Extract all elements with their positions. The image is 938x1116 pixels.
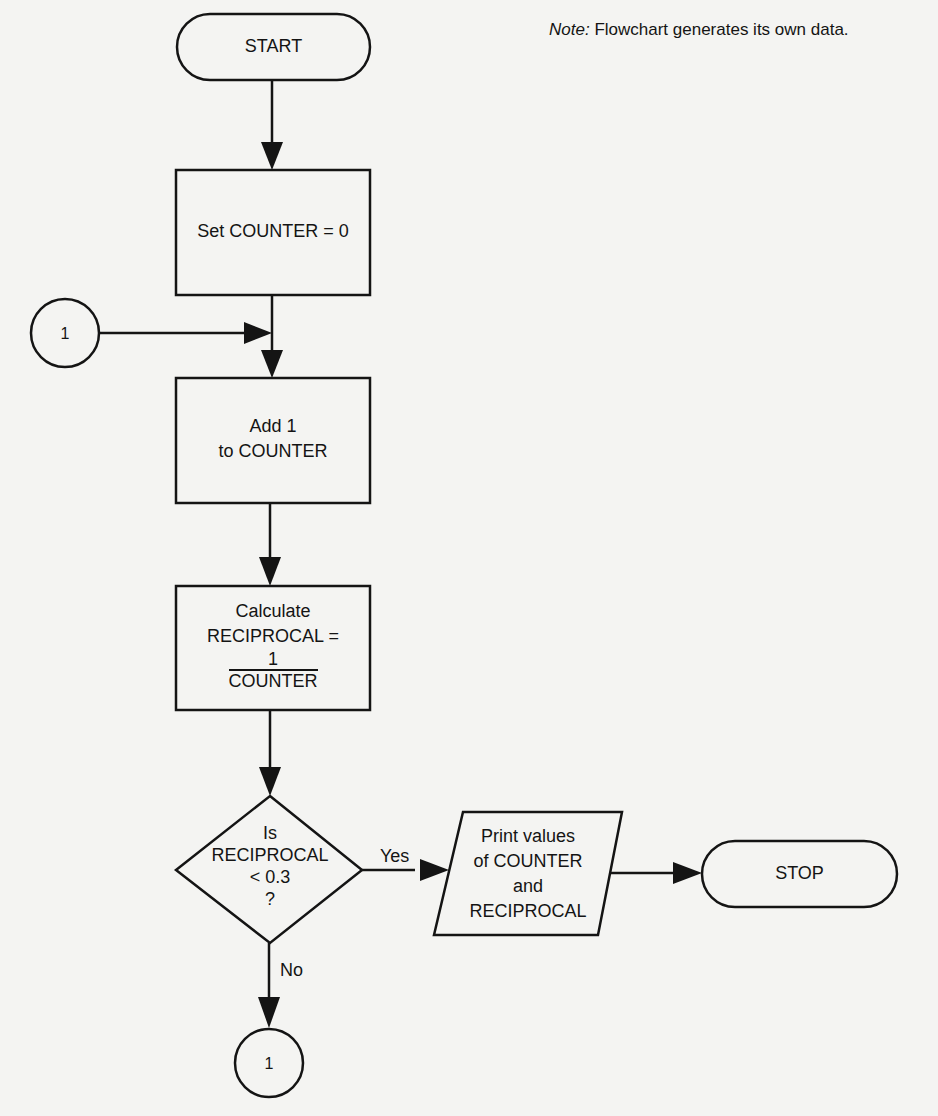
flowchart-canvas: Note: Flowchart generates its own data. …: [0, 0, 938, 1116]
yes-edge-label: Yes: [380, 846, 409, 867]
print-line2: of COUNTER: [440, 849, 616, 874]
print-line1: Print values: [440, 824, 616, 849]
arrowhead-icon: [259, 767, 281, 796]
decision-line3: < 0.3: [186, 866, 354, 888]
flowchart-shapes: [0, 0, 938, 1116]
arrowhead-icon: [261, 142, 283, 170]
connector-exit-label: 1: [235, 1051, 303, 1076]
stop-label: STOP: [702, 861, 897, 886]
print-line3: and: [440, 874, 616, 899]
decision-label: Is RECIPROCAL < 0.3 ?: [186, 822, 354, 910]
arrowhead-icon: [673, 862, 702, 884]
no-edge-label: No: [280, 960, 303, 981]
start-label: START: [177, 34, 370, 59]
stop-text: STOP: [775, 863, 824, 883]
calculate-line1: Calculate: [176, 599, 370, 624]
flowchart-note: Note: Flowchart generates its own data.: [549, 20, 849, 40]
connector-entry-text: 1: [61, 325, 70, 342]
connector-exit-text: 1: [265, 1055, 274, 1072]
print-label: Print values of COUNTER and RECIPROCAL: [440, 824, 616, 924]
set-counter-text: Set COUNTER = 0: [197, 221, 349, 241]
fraction-denominator: COUNTER: [229, 671, 318, 691]
decision-line4: ?: [186, 888, 354, 910]
add-one-line1: Add 1: [176, 414, 370, 439]
note-text: Flowchart generates its own data.: [594, 20, 848, 39]
arrowhead-icon: [261, 350, 283, 378]
fraction-numerator: 1: [229, 649, 318, 671]
arrowhead-icon: [244, 322, 272, 344]
arrowhead-icon: [259, 557, 281, 586]
note-prefix: Note:: [549, 20, 590, 39]
calculate-line2: RECIPROCAL =: [176, 624, 370, 649]
set-counter-label: Set COUNTER = 0: [176, 219, 370, 244]
no-text: No: [280, 960, 303, 980]
calculate-label: Calculate RECIPROCAL = 1 COUNTER: [176, 599, 370, 694]
reciprocal-fraction: 1 COUNTER: [229, 649, 318, 691]
yes-text: Yes: [380, 846, 409, 866]
decision-line1: Is: [186, 822, 354, 844]
arrowhead-icon: [258, 997, 280, 1028]
start-text: START: [245, 36, 302, 56]
print-line4: RECIPROCAL: [440, 899, 616, 924]
add-one-line2: to COUNTER: [176, 439, 370, 464]
decision-line2: RECIPROCAL: [186, 844, 354, 866]
add-one-label: Add 1 to COUNTER: [176, 414, 370, 464]
connector-entry-label: 1: [31, 321, 99, 346]
